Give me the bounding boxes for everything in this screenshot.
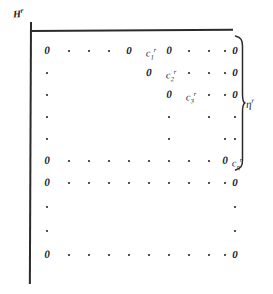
matrix-entry-zero: 0	[160, 39, 179, 62]
matrix-entry-dot	[38, 195, 56, 217]
matrix-entry-dot	[140, 171, 158, 193]
matrix-entry-zero: 0	[226, 171, 244, 193]
coefficient-superscript: r	[153, 46, 156, 53]
matrix-entry-dot	[60, 171, 78, 193]
matrix-entry-dot	[226, 195, 244, 217]
matrix-entry-dot	[160, 105, 178, 127]
matrix-entry-empty	[180, 195, 198, 217]
matrix-entry-dot	[80, 243, 98, 265]
matrix-entry-dot	[80, 171, 98, 193]
matrix-entry-empty	[120, 195, 138, 217]
matrix-entry-dot	[38, 61, 56, 83]
matrix-entry-empty	[100, 195, 118, 217]
matrix-entry-dot	[100, 243, 118, 265]
matrix-entry-dot	[100, 39, 118, 61]
matrix-entry-empty	[60, 83, 78, 105]
matrix-entry-dot	[180, 61, 198, 83]
matrix-entry-dot	[160, 127, 178, 149]
matrix-entry-dot	[60, 39, 78, 61]
matrix-entry-empty	[120, 61, 138, 83]
matrix-entry-dot	[180, 243, 198, 265]
matrix-entry-empty	[60, 127, 78, 149]
matrix-row: 00	[30, 243, 235, 265]
matrix-entry-dot	[60, 243, 78, 265]
matrix-entry-zero: 0	[160, 83, 179, 106]
matrix-entry-empty	[180, 127, 198, 149]
matrix-entry-empty	[120, 83, 138, 105]
matrix-entry-empty	[80, 195, 98, 217]
matrix-entry-dot	[100, 171, 118, 193]
matrix-entry-dot	[140, 243, 158, 265]
matrix-entry-empty	[60, 219, 78, 241]
matrix-entry-zero: 0	[38, 149, 57, 172]
matrix-row	[30, 195, 235, 217]
matrix-entry-empty	[80, 219, 98, 241]
matrix-entry-dot	[160, 171, 178, 193]
axis-label-h-superscript: r	[20, 7, 23, 15]
matrix-entry-dot	[38, 83, 56, 105]
matrix-entry-empty	[100, 83, 118, 105]
matrix-entry-empty	[100, 61, 118, 83]
matrix-entry-dot	[120, 149, 138, 171]
matrix-entry-zero: 0	[120, 39, 138, 61]
axis-label-h: Hr	[13, 8, 24, 20]
matrix-row	[30, 105, 235, 127]
matrix-entry-empty	[120, 219, 138, 241]
matrix-entry-zero: 0	[140, 61, 159, 84]
row-group-brace	[234, 34, 246, 172]
matrix-entry-empty	[120, 127, 138, 149]
matrix-entry-empty	[140, 127, 158, 149]
matrix-entry-dot	[140, 149, 158, 171]
matrix-entry-empty	[60, 195, 78, 217]
brace-label-eta: ηr	[246, 98, 255, 110]
matrix-entry-dot	[60, 149, 78, 171]
matrix-entry-zero: 0	[38, 39, 57, 62]
matrix-entry-empty	[80, 127, 98, 149]
matrix-entry-dot	[160, 243, 178, 265]
matrix-entry-zero: 0	[38, 243, 57, 266]
matrix-entry-empty	[60, 61, 78, 83]
matrix-entry-coefficient: c3r	[180, 83, 203, 106]
matrix-entry-empty	[140, 83, 158, 105]
matrix-entry-dot	[226, 219, 244, 241]
matrix-entry-empty	[140, 195, 158, 217]
matrix-entry-empty	[60, 105, 78, 127]
matrix-entry-empty	[180, 105, 198, 127]
matrix-row: 00c1r00	[30, 39, 235, 61]
coefficient-subscript: 3	[190, 97, 193, 104]
matrix-entry-dot	[80, 39, 98, 61]
matrix-entry-empty	[140, 219, 158, 241]
matrix-entry-dot	[160, 149, 178, 171]
matrix-entry-empty	[160, 219, 178, 241]
matrix-entry-empty	[100, 127, 118, 149]
matrix-row: 00	[30, 171, 235, 193]
matrix-row: 00cηr	[30, 149, 235, 171]
matrix-entry-empty	[140, 105, 158, 127]
matrix-entry-zero: 0	[38, 171, 57, 194]
matrix-entry-dot	[120, 171, 138, 193]
matrix-entry-dot	[38, 127, 56, 149]
matrix-entry-dot	[38, 105, 56, 127]
matrix-entry-empty	[160, 195, 178, 217]
coefficient-subscript: 1	[150, 53, 153, 60]
matrix-entry-dot	[100, 149, 118, 171]
matrix-entry-dot	[180, 149, 198, 171]
coefficient-subscript: 2	[170, 75, 173, 82]
matrix-entry-empty	[120, 105, 138, 127]
matrix-row: 0c3r0	[30, 83, 235, 105]
matrix-entry-empty	[80, 105, 98, 127]
matrix-entry-empty	[180, 219, 198, 241]
matrix-entry-coefficient: c2r	[160, 61, 183, 84]
matrix-entry-zero: 0	[226, 243, 244, 265]
matrix-entry-empty	[80, 83, 98, 105]
matrix-entry-dot	[80, 149, 98, 171]
matrix-entry-dot	[180, 171, 198, 193]
matrix-grid: 00c1r000c2r00c3r000cηr0000	[30, 32, 235, 280]
coefficient-superscript: r	[173, 68, 176, 75]
matrix-entry-empty	[100, 105, 118, 127]
matrix-entry-dot	[180, 39, 198, 61]
matrix-row: 0c2r0	[30, 61, 235, 83]
matrix-entry-empty	[100, 219, 118, 241]
matrix-row	[30, 219, 235, 241]
matrix-figure: Hr 00c1r000c2r00c3r000cηr0000 ηr	[0, 0, 273, 294]
